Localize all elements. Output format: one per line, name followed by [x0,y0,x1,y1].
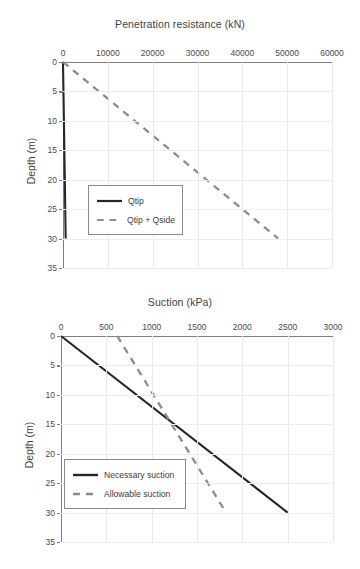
gridline-vertical [106,336,107,542]
plot-area-penetration [63,62,332,268]
y-tick-mark [59,209,62,210]
x-tick-label: 1500 [188,322,207,332]
gridline-horizontal [61,513,333,514]
x-tick-label: 1000 [142,322,161,332]
chart-title-suction: Suction (kPa) [0,296,360,308]
legend-label-necessary-suction: Necessary suction [104,470,174,480]
y-tick-mark [57,483,60,484]
gridline-vertical [288,336,289,542]
y-tick-label: 0 [35,331,55,341]
y-tick-label: 10 [35,390,55,400]
gridline-vertical [108,62,109,268]
gridline-vertical [332,62,333,268]
y-tick-mark [57,513,60,514]
y-tick-label: 20 [35,449,55,459]
x-tick-label: 0 [61,48,66,58]
y-tick-mark [57,542,60,543]
x-tick-label: 30000 [186,48,210,58]
gridline-horizontal [63,150,332,151]
gridline-horizontal [61,365,333,366]
figure-penetration-resistance: Penetration resistance (kN) Depth (m) 01… [0,0,360,284]
gridline-horizontal [63,268,332,269]
x-tick-label: 50000 [275,48,299,58]
legend-swatch-solid [96,196,123,206]
gridline-vertical [333,336,334,542]
y-tick-mark [59,121,62,122]
gridline-horizontal [61,542,333,543]
x-tick-label: 2500 [278,322,297,332]
legend-swatch-dashed [72,489,99,499]
y-axis-title-penetration: Depth (m) [25,121,37,201]
figure-suction: Suction (kPa) Depth (m) 0500100015002000… [0,284,360,569]
y-tick-mark [57,454,60,455]
y-tick-label: 10 [37,116,57,126]
legend-label-qtip-qside: Qtip + Qside [127,215,175,225]
legend-item-allowable-suction: Allowable suction [72,489,178,499]
x-tick-label: 40000 [231,48,255,58]
gridline-horizontal [61,454,333,455]
gridline-vertical [198,62,199,268]
y-tick-label: 15 [35,419,55,429]
gridline-horizontal [63,180,332,181]
legend-item-qtip-qside: Qtip + Qside [96,215,175,225]
y-tick-mark [57,395,60,396]
x-tick-label: 60000 [320,48,344,58]
y-tick-label: 5 [37,86,57,96]
y-tick-label: 20 [37,175,57,185]
y-tick-mark [57,336,60,337]
legend-label-allowable-suction: Allowable suction [104,489,170,499]
y-tick-label: 30 [37,234,57,244]
y-tick-label: 15 [37,145,57,155]
x-tick-label: 500 [99,322,113,332]
y-tick-label: 25 [35,478,55,488]
legend-label-qtip: Qtip [128,196,144,206]
plot-area-suction [61,336,333,542]
x-tick-label: 0 [59,322,64,332]
y-tick-mark [59,91,62,92]
gridline-vertical [197,336,198,542]
y-tick-mark [57,365,60,366]
y-tick-mark [57,424,60,425]
gridline-horizontal [63,239,332,240]
y-tick-mark [59,268,62,269]
legend-item-qtip: Qtip [96,196,175,206]
gridline-horizontal [63,121,332,122]
x-tick-label: 10000 [96,48,120,58]
gridline-vertical [153,62,154,268]
y-axis-title-suction: Depth (m) [23,405,35,485]
legend-item-necessary-suction: Necessary suction [72,470,178,480]
y-tick-label: 35 [37,263,57,273]
y-tick-mark [59,180,62,181]
y-tick-label: 30 [35,508,55,518]
x-tick-label: 20000 [141,48,165,58]
y-tick-label: 35 [35,537,55,547]
x-tick-label: 3000 [324,322,343,332]
y-tick-label: 0 [37,57,57,67]
gridline-horizontal [63,91,332,92]
legend-penetration: Qtip Qtip + Qside [88,185,183,235]
y-tick-label: 5 [35,360,55,370]
legend-swatch-dashed [96,215,122,225]
y-tick-mark [59,239,62,240]
gridline-vertical [287,62,288,268]
gridline-horizontal [61,424,333,425]
y-tick-mark [59,62,62,63]
legend-swatch-solid [72,470,99,480]
gridline-vertical [242,62,243,268]
gridline-vertical [152,336,153,542]
legend-suction: Necessary suction Allowable suction [64,459,186,509]
y-tick-mark [59,150,62,151]
chart-title-penetration: Penetration resistance (kN) [0,18,360,30]
y-tick-label: 25 [37,204,57,214]
x-tick-label: 2000 [233,322,252,332]
gridline-horizontal [61,395,333,396]
gridline-vertical [242,336,243,542]
